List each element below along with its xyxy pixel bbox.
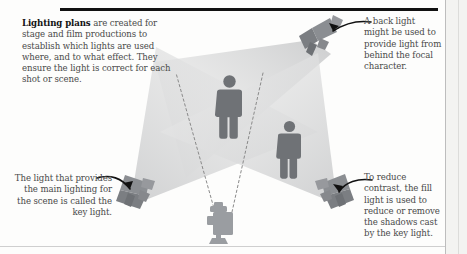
page-gutter (446, 0, 467, 254)
intro-paragraph: Lighting plans are created for stage and… (22, 18, 174, 86)
callout-back-light: A back light might be used to provide li… (364, 16, 442, 72)
camera-icon (207, 202, 233, 244)
intro-lead: Lighting plans (22, 18, 91, 28)
bottom-rule-divider (0, 246, 445, 247)
lighting-plan-page: Lighting plans are created for stage and… (0, 0, 467, 254)
callout-fill-light: To reduce contrast, the fill light is us… (364, 172, 444, 240)
callout-key-light: The light that provides the main lightin… (8, 173, 112, 218)
page-gutter-edge (458, 0, 459, 254)
